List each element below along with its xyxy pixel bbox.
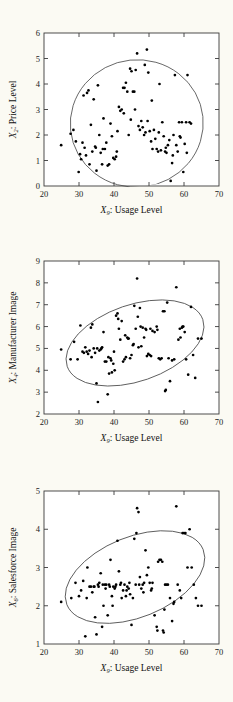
data-point xyxy=(165,152,168,155)
data-point xyxy=(125,356,128,359)
data-point xyxy=(80,158,83,161)
data-point xyxy=(155,625,158,628)
data-point xyxy=(69,358,72,361)
data-point xyxy=(98,134,101,137)
data-point xyxy=(181,121,184,124)
data-point xyxy=(114,585,117,588)
data-point xyxy=(117,318,120,321)
data-point xyxy=(146,48,149,51)
x-tick-label: 60 xyxy=(180,189,189,199)
scatterplot-figure: 2030405060700123456X9: Usage LevelX2: Pr… xyxy=(0,0,233,702)
data-point xyxy=(137,125,140,128)
x-axis-label: X9: Usage Level xyxy=(100,205,163,216)
data-point xyxy=(120,108,123,111)
data-point xyxy=(99,152,102,155)
data-point xyxy=(87,89,90,92)
data-point xyxy=(176,583,179,586)
data-point xyxy=(112,362,115,365)
data-point xyxy=(200,604,203,607)
x-tick-label: 30 xyxy=(75,189,84,199)
data-point xyxy=(82,580,85,583)
scatter-panel-manufacturer-image: 20304050607023456789X9: Usage LevelX4: M… xyxy=(0,228,233,462)
data-point xyxy=(154,137,157,140)
data-point xyxy=(116,130,119,133)
data-point xyxy=(72,129,75,132)
data-point xyxy=(85,154,88,157)
data-point xyxy=(168,139,171,142)
data-point xyxy=(94,616,97,619)
data-point xyxy=(88,163,91,166)
data-point xyxy=(108,585,111,588)
data-point xyxy=(96,347,99,350)
y-tick-label: 2 xyxy=(36,601,40,611)
data-point xyxy=(169,597,172,600)
data-point xyxy=(183,331,186,334)
data-point xyxy=(143,134,146,137)
data-point xyxy=(150,587,153,590)
data-point xyxy=(175,144,178,147)
data-point xyxy=(133,304,136,307)
plot-frame xyxy=(44,261,219,414)
data-point xyxy=(175,505,178,508)
data-point xyxy=(123,86,126,89)
y-tick-label: 5 xyxy=(36,486,40,496)
data-point xyxy=(76,358,79,361)
data-point xyxy=(163,608,166,611)
data-point xyxy=(151,581,154,584)
y-tick-label: 1 xyxy=(36,156,40,166)
x-tick-label: 70 xyxy=(215,417,224,427)
data-point xyxy=(111,595,114,598)
data-point xyxy=(115,150,118,153)
x-tick-label: 60 xyxy=(180,647,189,657)
data-point xyxy=(120,581,123,584)
data-point xyxy=(113,350,116,353)
data-point xyxy=(156,629,159,632)
data-point xyxy=(109,559,112,562)
data-point xyxy=(195,597,198,600)
data-point xyxy=(162,135,165,138)
data-point xyxy=(167,583,170,586)
data-point xyxy=(157,131,160,134)
data-point xyxy=(162,631,165,634)
data-point xyxy=(129,593,132,596)
data-point xyxy=(171,162,174,165)
data-point xyxy=(172,134,175,137)
data-point xyxy=(160,149,163,152)
data-point xyxy=(70,597,73,600)
data-point xyxy=(143,64,146,67)
data-point xyxy=(69,132,72,135)
data-point xyxy=(83,351,86,354)
x-tick-label: 50 xyxy=(145,189,154,199)
data-point xyxy=(186,74,189,77)
data-point xyxy=(74,581,77,584)
data-point xyxy=(127,587,130,590)
y-axis-label: X4: Manufacturer Image xyxy=(8,292,19,385)
x-axis-label: X9: Usage Level xyxy=(100,433,163,444)
data-point xyxy=(80,589,83,592)
data-point xyxy=(129,118,132,121)
data-point xyxy=(150,99,153,102)
data-point xyxy=(115,155,118,158)
y-tick-label: 0 xyxy=(36,181,40,191)
scatter-plot-1: 20304050607023456789X9: Usage LevelX4: M… xyxy=(0,228,233,462)
data-point xyxy=(134,69,137,72)
data-point xyxy=(137,346,140,349)
data-point xyxy=(140,587,143,590)
data-point xyxy=(97,401,100,404)
data-point xyxy=(130,624,133,627)
data-point xyxy=(82,94,85,97)
data-point xyxy=(137,511,140,514)
data-point xyxy=(161,121,164,124)
data-point xyxy=(86,92,89,95)
data-point xyxy=(97,84,100,87)
data-point xyxy=(141,126,144,129)
data-point xyxy=(120,597,123,600)
data-point xyxy=(94,146,97,149)
scatter-panel-salesforce-image: 20304050607012345X9: Usage LevelX6: Sale… xyxy=(0,458,233,692)
data-point xyxy=(172,602,175,605)
data-point xyxy=(133,537,136,540)
y-axis-label: X2: Price Level xyxy=(8,80,19,139)
data-point xyxy=(100,347,103,350)
data-point xyxy=(197,604,200,607)
data-point xyxy=(111,135,114,138)
